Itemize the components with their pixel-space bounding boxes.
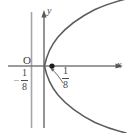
x-axis-label: x [117,60,121,70]
focus-point-marker [49,63,54,68]
fraction-numerator: 1 [21,68,28,79]
parabola-figure: y x O 1 8 1 8 [0,0,129,133]
fraction-one-eighth-negative: 1 8 [21,68,28,92]
y-axis-label: y [47,6,51,16]
directrix-value-label: 1 8 [14,68,28,92]
fraction-denominator: 8 [62,80,69,91]
parabola-upper-branch [45,0,127,66]
fraction-one-eighth-positive: 1 8 [62,66,69,90]
parabola-lower-branch [45,66,127,133]
focus-value-label: 1 8 [62,66,69,90]
minus-sign-icon [14,80,19,81]
origin-label: O [23,55,31,66]
y-axis-arrow-icon [41,10,46,18]
fraction-numerator: 1 [62,66,69,77]
fraction-denominator: 8 [21,82,28,93]
